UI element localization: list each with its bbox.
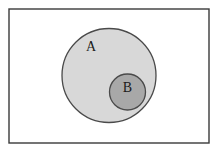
set-a-circle	[62, 29, 156, 123]
set-a-label: A	[86, 39, 97, 54]
set-b-label: B	[123, 80, 132, 95]
venn-diagram-figure: A B	[0, 0, 221, 153]
venn-diagram-canvas: A B	[0, 0, 221, 153]
